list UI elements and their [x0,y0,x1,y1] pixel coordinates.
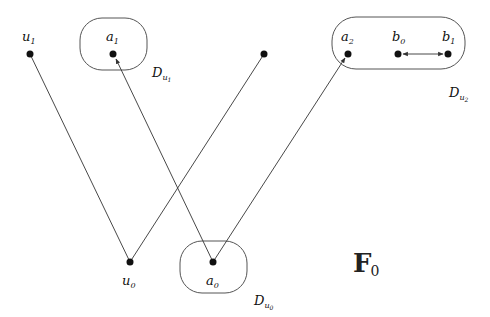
label-b0: b0 [392,30,405,46]
figure-title: F0 [353,250,379,278]
label-a2: a2 [341,30,354,46]
diagram-canvas: u1 a1 a2 b0 b1 u0 a0 Du1 Du2 Du0 F0 [0,0,490,317]
edge-u1-u0 [30,54,130,262]
label-u0: u0 [122,274,135,290]
label-region-d-u2: Du2 [449,86,468,103]
node-a1 [110,51,117,58]
label-b1: b1 [442,30,455,46]
diagram-graphics [0,0,490,317]
label-region-d-u0: Du0 [254,294,273,311]
label-a0: a0 [206,274,219,290]
node-a0 [210,259,217,266]
edge-u0-top [130,54,264,262]
node-u0 [127,259,134,266]
node-b0 [395,51,402,58]
node-a2 [345,51,352,58]
edge-a0-a1 [116,59,213,262]
node-b1 [445,51,452,58]
label-a1: a1 [106,30,119,46]
label-u1: u1 [22,30,35,46]
edge-a0-a2 [213,58,345,262]
node-top [261,51,268,58]
node-u1 [27,51,34,58]
label-region-d-u1: Du1 [152,66,171,83]
